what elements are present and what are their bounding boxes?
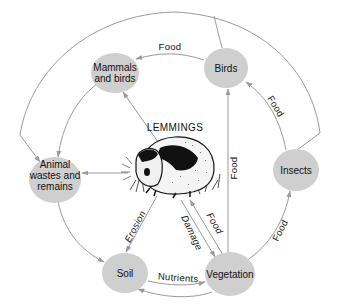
edge-mammals-to-wastes (58, 84, 97, 157)
node-insects: Insects (273, 149, 319, 191)
lemmings-title: LEMMINGS (147, 122, 204, 133)
node-label: Mammals (93, 62, 136, 73)
label-vegetation-to-birds: Food (228, 157, 239, 180)
edge-lemmings-to-mammals (123, 92, 158, 142)
node-birds: Birds (204, 48, 248, 88)
label-vegetation-to-lemmings: Food (205, 211, 226, 237)
edge-wastes-to-soil (58, 202, 104, 262)
node-label: Soil (117, 268, 134, 279)
node-label: Vegetation (206, 269, 253, 280)
node-label: Birds (215, 63, 238, 74)
node-label: Animal (40, 159, 71, 170)
label-vegetation-to-insects: Food (270, 218, 290, 243)
node-animal-wastes-and-remains: Animal wastes and remains (29, 157, 81, 203)
birds-to-outer-arc (214, 16, 222, 48)
label-birds-to-mammals: Food (159, 41, 182, 52)
lemming-food-web-diagram: Mammals and birds Birds Animal wastes an… (0, 0, 337, 304)
node-label: remains (37, 181, 73, 192)
edge-vegetation-to-soil (138, 289, 212, 297)
node-vegetation: Vegetation (205, 252, 255, 296)
node-label: wastes and (29, 170, 81, 181)
node-mammals-and-birds: Mammals and birds (91, 53, 139, 93)
node-label: Insects (280, 165, 312, 176)
node-label: and birds (94, 73, 135, 84)
edge-birds-to-mammals (136, 54, 204, 60)
node-soil: Soil (102, 253, 148, 293)
label-soil-to-vegetation: Nutrients (158, 271, 199, 285)
label-lemmings-to-soil: Erosion (122, 209, 148, 244)
lemming-illustration-icon (121, 137, 220, 198)
